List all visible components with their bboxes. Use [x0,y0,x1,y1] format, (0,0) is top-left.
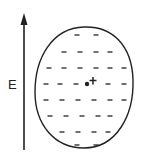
electron-cloud-outline [35,27,133,148]
positive-charge-icon [90,77,97,85]
field-label: E [8,77,17,92]
arrow-head-icon [21,13,28,25]
nucleus-dot [85,82,89,86]
field-arrow [21,13,28,150]
negative-charges [44,35,127,145]
polarized-atom-diagram: E [0,0,144,158]
